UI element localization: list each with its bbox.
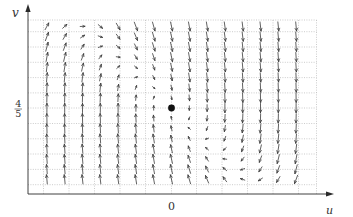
- vector-arrow: [223, 158, 227, 159]
- vector-arrow: [277, 22, 279, 31]
- vector-arrow: [224, 22, 226, 31]
- vector-arrow: [188, 137, 190, 141]
- vector-arrow: [223, 177, 226, 182]
- vector-arrow: [224, 63, 226, 72]
- vector-arrow: [188, 156, 191, 163]
- vector-arrow: [224, 53, 226, 62]
- vector-arrow: [277, 32, 279, 41]
- vector-arrow: [206, 94, 208, 102]
- vector-arrow: [259, 114, 261, 123]
- vector-arrow: [259, 124, 261, 133]
- vector-arrow: [82, 63, 84, 71]
- vector-arrow: [135, 86, 137, 90]
- vector-arrow: [295, 63, 297, 72]
- vector-arrow: [81, 83, 83, 92]
- vector-arrow: [260, 32, 262, 41]
- vector-arrow: [223, 168, 226, 171]
- vector-arrow: [63, 175, 65, 184]
- vector-arrow: [99, 74, 101, 81]
- vector-arrow: [46, 53, 48, 62]
- vector-arrow: [259, 63, 261, 72]
- vector-arrow: [98, 25, 102, 29]
- y-tick-label-fraction: 4 5: [15, 98, 23, 119]
- y-tick-label-denominator: 5: [15, 108, 21, 119]
- vector-arrow: [81, 93, 83, 102]
- vector-arrow: [170, 155, 173, 164]
- vector-arrow: [63, 34, 66, 40]
- vector-arrow: [188, 165, 191, 173]
- vector-arrow: [81, 35, 85, 38]
- vector-arrow: [153, 65, 155, 70]
- vector-arrow: [99, 93, 101, 102]
- vector-arrow: [295, 22, 297, 31]
- vector-arrow: [241, 178, 245, 180]
- vector-arrow: [81, 144, 83, 153]
- vector-arrow: [117, 155, 119, 164]
- vector-arrow: [152, 125, 154, 132]
- vector-arrow: [241, 157, 244, 161]
- vector-arrow: [277, 134, 279, 143]
- vector-arrow: [171, 85, 173, 90]
- vector-arrow: [295, 53, 297, 62]
- vector-arrow: [224, 125, 226, 131]
- vector-arrow: [116, 23, 120, 29]
- vector-arrow: [46, 63, 48, 72]
- vector-arrow: [171, 53, 174, 62]
- vector-arrow: [46, 83, 48, 92]
- vector-arrow: [224, 114, 226, 122]
- vector-arrow: [241, 146, 243, 151]
- equilibrium-point: [168, 105, 175, 112]
- vector-arrow: [224, 83, 226, 92]
- vector-arrow: [224, 73, 226, 82]
- vector-arrow: [277, 166, 280, 173]
- vector-arrow: [99, 144, 101, 153]
- vector-arrow: [277, 144, 279, 153]
- vector-arrow: [241, 114, 243, 123]
- vector-arrow: [135, 95, 137, 100]
- vector-arrow: [46, 155, 48, 164]
- vector-arrow: [81, 175, 83, 184]
- vector-arrow: [170, 126, 172, 131]
- vector-arrow: [189, 117, 190, 120]
- vector-arrow: [259, 178, 263, 181]
- vector-field-plot: v u 0 4 5: [0, 0, 353, 217]
- vector-arrow: [295, 155, 297, 164]
- vector-arrow: [188, 32, 190, 41]
- vector-arrow: [153, 54, 156, 61]
- vector-arrow: [152, 155, 154, 164]
- vector-arrow: [242, 22, 244, 31]
- vector-arrow: [46, 93, 48, 102]
- vector-arrow: [153, 96, 154, 99]
- vector-arrow: [134, 66, 137, 68]
- vector-arrow: [188, 73, 190, 82]
- vector-arrow: [99, 83, 101, 91]
- vector-arrow: [117, 144, 119, 153]
- vector-arrow: [259, 93, 261, 102]
- vector-arrow: [117, 124, 119, 133]
- vector-arrow: [277, 93, 279, 102]
- vector-arrow: [63, 104, 65, 113]
- vector-arrow: [99, 64, 101, 69]
- vector-arrow: [99, 104, 101, 113]
- vector-arrow: [188, 106, 190, 110]
- vector-arrow: [152, 32, 155, 41]
- vector-arrow: [63, 43, 66, 50]
- vector-arrow: [171, 63, 173, 71]
- vector-arrow: [295, 114, 297, 123]
- vector-arrow: [241, 124, 243, 132]
- vector-arrow: [206, 32, 208, 41]
- vector-arrow: [206, 22, 208, 31]
- vector-arrow: [242, 93, 244, 102]
- vector-arrow: [152, 134, 154, 143]
- vector-arrow: [63, 114, 65, 123]
- vector-arrow: [63, 165, 65, 174]
- vector-arrow: [295, 124, 297, 133]
- vector-arrow: [206, 116, 208, 121]
- vector-arrow: [117, 114, 119, 123]
- vector-arrow: [259, 156, 262, 162]
- vector-arrow: [224, 148, 227, 151]
- vector-arrow: [63, 25, 67, 29]
- vector-arrow: [206, 148, 209, 150]
- vector-arrow: [152, 22, 155, 31]
- vector-arrow: [64, 83, 66, 92]
